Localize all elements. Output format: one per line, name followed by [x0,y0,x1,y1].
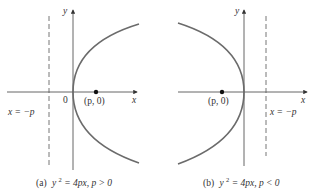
caption-b-lhs: y [218,178,224,188]
caption-b: (b) y 2 = 4px, p < 0 [203,174,280,189]
panel-b: y x (p, 0) x = −p (b) y 2 = 4px, p < 0 [178,6,307,189]
directrix-label: x = −p [7,107,35,117]
caption-b-prefix: (b) [203,178,214,189]
focus-point [94,90,98,94]
focus-label: (p, 0) [208,96,229,107]
x-axis-label: x [300,95,306,105]
focus-point [220,90,224,94]
focus-label: (p, 0) [84,96,105,107]
caption-a: (a) y 2 = 4px, p > 0 [36,174,112,189]
y-axis-label: y [234,6,240,16]
x-axis-label: x [131,95,137,105]
panel-a: y x 0 (p, 0) x = −p (a) y 2 = 4px, p > 0 [7,6,139,189]
caption-b-exp: 2 [226,176,229,183]
parabola-curve [73,24,139,163]
caption-a-exp: 2 [59,176,62,183]
origin-label: 0 [63,95,68,105]
caption-a-lhs: y [51,178,57,188]
caption-b-rhs: = 4px, p < 0 [232,178,280,188]
parabola-figure: y x 0 (p, 0) x = −p (a) y 2 = 4px, p > 0… [0,0,309,193]
y-axis-label: y [62,6,68,16]
parabola-curve [178,23,244,164]
caption-a-prefix: (a) [36,178,47,189]
directrix-label: x = −p [269,107,297,117]
caption-a-rhs: = 4px, p > 0 [64,178,112,188]
